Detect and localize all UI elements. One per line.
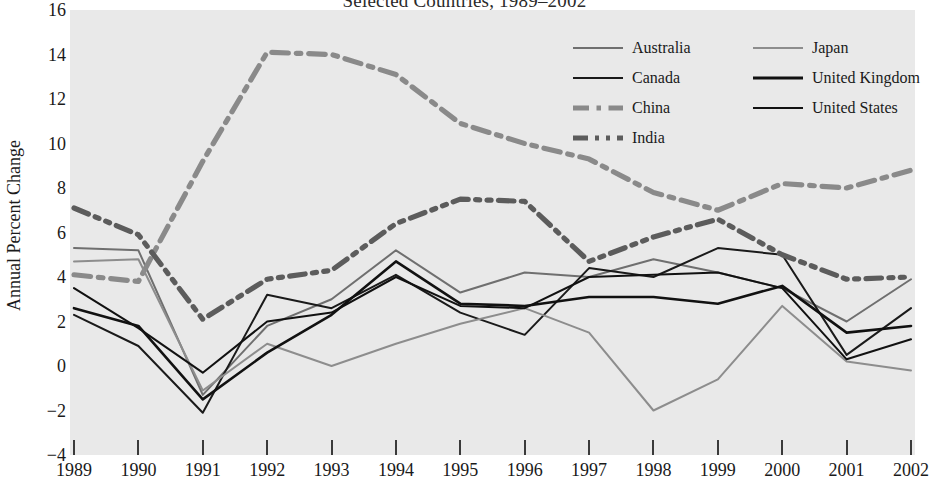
y-tick-label: 4: [57, 267, 66, 288]
y-tick-label: 2: [57, 311, 66, 332]
legend-item-united-states[interactable]: United States: [752, 100, 898, 116]
legend-line-swatch: [572, 131, 624, 145]
legend-item-canada[interactable]: Canada: [572, 70, 680, 86]
legend-line-swatch: [572, 41, 624, 55]
legend-item-china[interactable]: China: [572, 100, 670, 116]
y-tick-label: 16: [48, 0, 66, 21]
legend-line-swatch: [752, 101, 804, 115]
y-tick-label: 12: [48, 89, 66, 110]
legend-line-swatch: [572, 101, 624, 115]
x-tick-mark: [910, 440, 912, 455]
y-tick-label: −2: [47, 400, 66, 421]
x-tick-mark: [781, 440, 783, 455]
x-tick-label: 1992: [249, 460, 285, 481]
legend-label: Japan: [812, 40, 848, 56]
legend-label: United Kingdom: [812, 70, 920, 86]
legend-line-swatch: [572, 71, 624, 85]
legend-item-india[interactable]: India: [572, 130, 665, 146]
x-tick-label: 1993: [314, 460, 350, 481]
x-tick-mark: [137, 440, 139, 455]
legend-line-swatch: [752, 41, 804, 55]
x-axis-tick-labels: 1989199019911992199319941995199619971998…: [70, 460, 915, 490]
x-tick-label: 1991: [185, 460, 221, 481]
x-tick-mark: [717, 440, 719, 455]
x-tick-label: 1989: [56, 460, 92, 481]
legend-label: Australia: [632, 40, 691, 56]
y-tick-label: 6: [57, 222, 66, 243]
x-tick-mark: [459, 440, 461, 455]
x-tick-mark: [524, 440, 526, 455]
legend-item-united-kingdom[interactable]: United Kingdom: [752, 70, 920, 86]
legend-item-japan[interactable]: Japan: [752, 40, 848, 56]
x-tick-mark: [202, 440, 204, 455]
x-tick-label: 2000: [764, 460, 800, 481]
x-tick-label: 1996: [507, 460, 543, 481]
x-tick-mark: [588, 440, 590, 455]
x-tick-label: 2001: [829, 460, 865, 481]
x-tick-mark: [395, 440, 397, 455]
x-tick-mark: [331, 440, 333, 455]
y-tick-label: 14: [48, 44, 66, 65]
legend-label: Canada: [632, 70, 680, 86]
chart-figure: Selected Countries, 1989–2002 Annual Per…: [0, 0, 929, 496]
x-axis-tick-marks: [70, 440, 915, 458]
x-tick-label: 1997: [571, 460, 607, 481]
x-tick-label: 1994: [378, 460, 414, 481]
y-tick-label: 10: [48, 133, 66, 154]
series-line-australia: [74, 248, 911, 395]
x-tick-mark: [266, 440, 268, 455]
legend-item-australia[interactable]: Australia: [572, 40, 691, 56]
x-tick-mark: [846, 440, 848, 455]
x-tick-mark: [73, 440, 75, 455]
legend-line-swatch: [752, 71, 804, 85]
legend-label: United States: [812, 100, 898, 116]
legend-label: China: [632, 100, 670, 116]
x-tick-label: 1995: [442, 460, 478, 481]
x-tick-label: 1998: [635, 460, 671, 481]
y-tick-label: 8: [57, 178, 66, 199]
y-axis-tick-labels: 1614121086420−2−4: [22, 10, 66, 455]
x-tick-label: 1999: [700, 460, 736, 481]
chart-legend: AustraliaCanadaChinaIndiaJapanUnited Kin…: [572, 40, 924, 162]
x-tick-mark: [652, 440, 654, 455]
x-tick-label: 2002: [893, 460, 929, 481]
y-tick-label: 0: [57, 356, 66, 377]
legend-label: India: [632, 130, 665, 146]
x-tick-label: 1990: [120, 460, 156, 481]
